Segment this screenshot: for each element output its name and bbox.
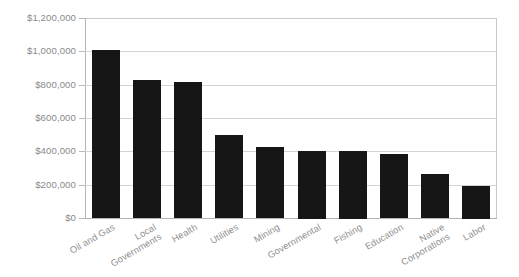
y-axis-tick-label: $0 [0,212,76,223]
y-axis-tick-label: $200,000 [0,179,76,190]
bar[interactable] [339,151,367,219]
bar[interactable] [298,151,326,219]
bar[interactable] [462,186,490,219]
bar[interactable] [215,135,243,218]
y-axis-tick-label: $1,000,000 [0,45,76,56]
y-axis-tick-label: $1,200,000 [0,12,76,23]
bar[interactable] [256,147,284,218]
y-axis-tick-label: $800,000 [0,79,76,90]
bar[interactable] [174,82,202,218]
bar[interactable] [380,154,408,218]
bar[interactable] [421,174,449,218]
bar[interactable] [92,50,120,218]
y-axis-tick-label: $600,000 [0,112,76,123]
y-axis-tick-label: $400,000 [0,145,76,156]
bar-chart-figure: $0$200,000$400,000$600,000$800,000$1,000… [0,0,519,277]
bar[interactable] [133,80,161,218]
